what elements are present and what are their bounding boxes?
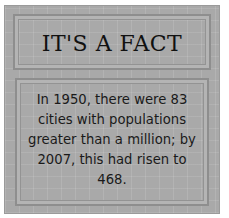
fact-card: IT'S A FACT In 1950, there were 83 citie… bbox=[4, 5, 220, 214]
title-panel: IT'S A FACT bbox=[13, 14, 211, 70]
fact-text: In 1950, there were 83 cities with popul… bbox=[17, 90, 207, 190]
card-title: IT'S A FACT bbox=[42, 31, 183, 56]
fact-panel: In 1950, there were 83 cities with popul… bbox=[15, 78, 209, 206]
